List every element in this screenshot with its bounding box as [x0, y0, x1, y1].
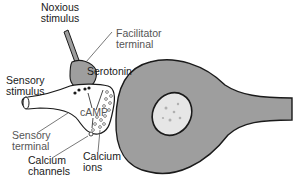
noxious-stimulus-label: Noxious stimulus [37, 2, 83, 24]
serotonin-label: Serotonin [87, 66, 132, 77]
calcium-channel [89, 132, 93, 136]
neuron-synapse-diagram: Noxious stimulus Facilitator terminal Se… [0, 0, 297, 183]
calcium-ions-label: Calcium ions [83, 151, 121, 173]
postsynaptic-cell-body [116, 60, 292, 174]
calcium-channels-label: Calcium channels [28, 155, 70, 177]
sensory-stimulus-label: Sensory stimulus [6, 75, 45, 97]
camp-label: cAMP [80, 107, 108, 118]
facilitator-axon [64, 30, 80, 65]
facilitator-terminal-label: Facilitator terminal [116, 28, 162, 50]
sensory-terminal-label: Sensory terminal [12, 130, 51, 152]
